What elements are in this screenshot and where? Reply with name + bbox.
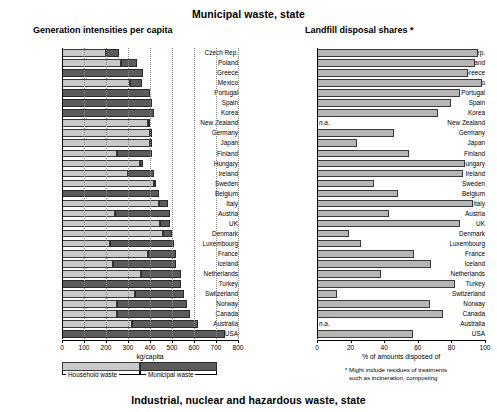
chart-row: Finland [255,149,485,159]
chart-row: Korea [0,108,238,118]
x-axis-tick [485,340,486,343]
chart-row: Australian.a. [255,319,485,329]
bar-segment-household [62,240,110,248]
x-axis-tick [150,340,151,343]
chart-row: Czech Rep. [0,48,238,58]
bar-landfill [317,250,414,258]
chart-row: France [0,249,238,259]
x-axis-tick [384,340,385,343]
x-axis-tick [172,340,173,343]
bar-track [317,219,485,229]
x-axis-tick [128,340,129,343]
x-axis-tick-label: 20 [337,344,365,352]
bar-track [317,329,485,339]
bar-track [317,209,485,219]
chart-row: Sweden [0,179,238,189]
bar-track [317,239,485,249]
chart-row: France [255,249,485,259]
bar-track [317,88,485,98]
bar-segment-municipal [132,320,198,328]
gridline [216,48,217,339]
na-label: n.a. [319,118,330,128]
bar-track [317,229,485,239]
axis-baseline-vertical [317,48,318,339]
chart-row: Belgium [255,189,485,199]
bar-segment-household [62,230,163,238]
bar-segment-household [62,170,128,178]
bar-landfill [317,139,357,147]
bar-track [317,199,485,209]
bar-track [317,289,485,299]
footnote-line-1: * Might include residues of treatments [345,366,447,373]
bar-track [317,108,485,118]
bar-segment-household [62,320,132,328]
bar-landfill [317,270,381,278]
bar-segment-household [62,119,148,127]
bar-track [317,189,485,199]
chart-row: Japan [0,138,238,148]
chart-row: Portugal [255,88,485,98]
x-axis-tick-label: 800 [224,344,252,352]
bar-segment-municipal [154,180,156,188]
chart-row: USA [0,329,238,339]
chart-row: Turkey [0,279,238,289]
chart-row: Iceland [0,259,238,269]
bar-track [317,98,485,108]
bar-segment-municipal [115,210,170,218]
gridline [128,48,129,339]
bar-landfill [317,240,361,248]
chart-row: Korea [255,108,485,118]
bar-track [317,299,485,309]
legend-swatch-household [62,362,140,371]
chart-row: Finland [0,149,238,159]
bar-segment-municipal [121,59,136,67]
chart-row: New Zealandn.a. [255,118,485,128]
bar-landfill [317,69,468,77]
chart-row: Sweden [255,179,485,189]
bar-landfill [317,200,473,208]
x-axis-tick [418,340,419,343]
bar-segment-municipal [62,330,225,338]
chart-row: Belgium [0,189,238,199]
chart-row: Germany [255,128,485,138]
bar-segment-municipal [62,190,159,198]
bar-segment-municipal [62,109,154,117]
bar-track [317,169,485,179]
chart-row: Hungary [0,159,238,169]
chart-row: Ireland [0,169,238,179]
bar-track [317,309,485,319]
bar-track [317,149,485,159]
bar-landfill [317,210,389,218]
bar-segment-household [62,260,113,268]
bar-track [317,128,485,138]
bar-segment-household [62,220,160,228]
x-axis-tick-label: 0 [303,344,331,352]
chart-row: Italy [255,199,485,209]
bar-landfill [317,160,465,168]
gridline [194,48,195,339]
bar-landfill [317,89,460,97]
legend-label-municipal: Municipal waste [146,371,195,379]
bar-segment-municipal [163,230,172,238]
chart-row: Netherlands [0,269,238,279]
bar-landfill [317,99,451,107]
chart-row: Spain [255,98,485,108]
legend: Household waste Municipal waste [62,362,217,371]
bar-segment-household [62,290,135,298]
bar-landfill [317,109,438,117]
footnote: * Might include residues of treatments s… [345,366,495,382]
bar-track [317,179,485,189]
bar-landfill [317,300,430,308]
gridline [172,48,173,339]
bar-segment-household [62,59,121,67]
chart-row: Turkey [255,279,485,289]
bar-segment-household [62,79,130,87]
x-axis-title: kg/capita [62,353,238,360]
chart-row: Denmark [0,229,238,239]
chart-row: Norway [0,299,238,309]
landfill-disposal-chart: Czech Rep.PolandGreeceMexicoPortugalSpai… [255,48,497,348]
bar-landfill [317,260,431,268]
legend-label-household: Household waste [66,371,119,379]
bar-segment-household [62,310,117,318]
chart-row: Norway [255,299,485,309]
